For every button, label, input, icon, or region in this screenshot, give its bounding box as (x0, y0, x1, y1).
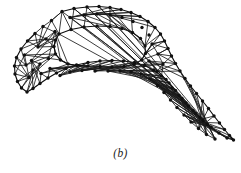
mesh-node (166, 47, 169, 50)
mesh-node (170, 86, 173, 89)
mesh-node (156, 84, 159, 87)
mesh-node (143, 44, 146, 47)
mesh-node (205, 133, 208, 136)
mesh-node (191, 109, 194, 112)
mesh-node (140, 26, 143, 29)
mesh-node (13, 64, 16, 67)
mesh-node (95, 12, 98, 15)
mesh-node (129, 11, 132, 14)
mesh-node (164, 78, 167, 81)
mesh-node (85, 5, 88, 8)
mesh-node (120, 16, 123, 19)
mesh-node (122, 59, 125, 62)
mesh-node (159, 32, 162, 35)
mesh-node (194, 112, 197, 115)
mesh-node (174, 89, 177, 92)
mesh-node (161, 62, 164, 65)
mesh-node (106, 69, 109, 72)
mesh-node (160, 74, 163, 77)
mesh-node (68, 16, 71, 19)
mesh-edge (15, 65, 27, 66)
mesh-edge (62, 9, 74, 12)
mesh-node (54, 52, 57, 55)
figure-container: (b) (0, 0, 241, 173)
mesh-node (86, 64, 89, 67)
mesh-node (183, 77, 186, 80)
mesh-node (69, 28, 72, 31)
mesh-edge (74, 7, 87, 9)
mesh-node (38, 62, 41, 65)
mesh-node (187, 104, 190, 107)
mesh-node (86, 61, 89, 64)
mesh-node (118, 69, 121, 72)
mesh-node (33, 32, 36, 35)
mesh-node (16, 80, 19, 83)
mesh-node (178, 69, 181, 72)
mesh-node (189, 84, 192, 87)
mesh-node (66, 62, 69, 65)
mesh-node (110, 65, 113, 68)
mesh-node (64, 67, 67, 70)
mesh-node (170, 54, 173, 57)
mesh-node (24, 63, 27, 66)
mesh-node (108, 6, 111, 9)
mesh-node (180, 97, 183, 100)
mesh-node (223, 128, 226, 131)
mesh-node (232, 138, 235, 141)
mesh-node (146, 20, 149, 23)
mesh-node (140, 58, 143, 61)
mesh-node (217, 131, 220, 134)
mesh-node (20, 86, 23, 89)
mesh-node (98, 65, 101, 68)
mesh-node (75, 64, 78, 67)
mesh-node (147, 59, 150, 62)
mesh-node (150, 42, 153, 45)
mesh-node (27, 76, 30, 79)
mesh-node (60, 10, 63, 13)
mesh-node (82, 25, 85, 28)
mesh-node (163, 39, 166, 42)
mesh-node (131, 31, 134, 34)
mesh-edge-layer (15, 7, 234, 141)
mesh-node (162, 91, 165, 94)
mesh-node (47, 57, 50, 60)
mesh-node (59, 58, 62, 61)
mesh-node (38, 82, 41, 85)
mesh-node (46, 76, 49, 79)
mesh-edge (62, 12, 71, 30)
mesh-node (131, 20, 134, 23)
mesh-node (184, 101, 187, 104)
mesh-node (177, 94, 180, 97)
mesh-node (98, 59, 101, 62)
mesh-node (30, 59, 33, 62)
mesh-node (212, 114, 215, 117)
mesh-node (55, 71, 58, 74)
mesh-node (48, 67, 51, 70)
mesh-node (31, 68, 34, 71)
mesh-node (209, 125, 212, 128)
mesh-edge (112, 61, 124, 62)
mesh-node (13, 72, 16, 75)
mesh-edge (158, 49, 168, 55)
mesh-node (189, 120, 192, 123)
mesh-node (54, 38, 57, 41)
mesh-node (93, 69, 96, 72)
mesh-node (201, 119, 204, 122)
mesh-node (139, 72, 142, 75)
mesh-node (201, 99, 204, 102)
mesh-node (68, 70, 71, 73)
mesh-node (97, 5, 100, 8)
mesh-node (174, 62, 177, 65)
mesh-node (156, 52, 159, 55)
mesh-node (57, 32, 60, 35)
mesh-node (138, 15, 141, 18)
mesh-edge (52, 12, 63, 21)
mesh-node (175, 106, 178, 109)
mesh-node (44, 37, 47, 40)
mesh-node (122, 65, 125, 68)
mesh-edge (157, 71, 180, 72)
mesh-node (50, 19, 53, 22)
mesh-node (31, 87, 34, 90)
mesh-node (206, 123, 209, 126)
mesh-node (26, 39, 29, 42)
